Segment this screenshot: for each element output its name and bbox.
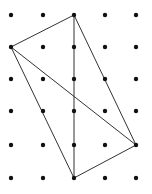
segment-DC: [74, 145, 136, 178]
grid-dot: [72, 13, 76, 17]
grid-dot: [9, 77, 13, 81]
dot-grid-diagram: [0, 0, 152, 194]
grid-dot: [41, 109, 45, 113]
grid-dot: [134, 109, 138, 113]
polygon-segments: [11, 15, 136, 178]
grid-dot: [103, 77, 107, 81]
grid-dot: [9, 143, 13, 147]
grid-dot: [41, 77, 45, 81]
grid-dot: [134, 176, 138, 180]
grid-dot: [72, 176, 76, 180]
grid-dot: [103, 109, 107, 113]
grid-dot: [9, 109, 13, 113]
grid-dot: [134, 143, 138, 147]
grid-dot: [9, 176, 13, 180]
grid-dot: [103, 13, 107, 17]
grid-dot: [72, 109, 76, 113]
grid-dot: [41, 176, 45, 180]
grid-dot: [41, 143, 45, 147]
grid-dot: [134, 13, 138, 17]
grid-dot: [72, 45, 76, 49]
grid-dot: [72, 77, 76, 81]
segment-AB: [11, 15, 74, 47]
grid-dot: [103, 176, 107, 180]
grid-dot: [134, 45, 138, 49]
grid-dot: [41, 13, 45, 17]
grid-dot: [72, 143, 76, 147]
grid-dot: [103, 143, 107, 147]
grid-dot: [9, 13, 13, 17]
grid-dot: [103, 45, 107, 49]
grid-dot: [134, 77, 138, 81]
grid-dot: [41, 45, 45, 49]
grid-dot: [9, 45, 13, 49]
